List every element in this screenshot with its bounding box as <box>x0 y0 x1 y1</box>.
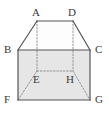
vertex-label-h: H <box>66 74 74 85</box>
solid-figure-svg <box>0 0 109 117</box>
geometry-figure: ADBCEHFG <box>0 0 109 117</box>
vertex-label-d: D <box>68 7 76 18</box>
vertex-label-f: F <box>4 94 10 105</box>
vertex-label-a: A <box>32 7 40 18</box>
vertex-label-b: B <box>4 44 11 55</box>
vertex-label-e: E <box>33 74 40 85</box>
top-trapezoid-ABCD <box>18 21 90 50</box>
vertex-label-c: C <box>95 44 102 55</box>
vertex-label-g: G <box>95 94 103 105</box>
front-rectangle-BCGF <box>18 50 90 100</box>
